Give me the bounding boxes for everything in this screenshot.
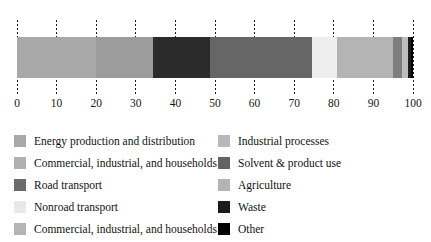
legend-column-left: Energy production and distributionCommer… xyxy=(14,130,224,240)
legend-item-label: Waste xyxy=(238,201,266,214)
bar-segment xyxy=(411,37,413,78)
x-tick-label: 20 xyxy=(90,96,102,110)
legend-item-label: Solvent & product use xyxy=(238,157,341,170)
legend-item: Industrial processes xyxy=(218,130,430,152)
legend-item: Commercial, industrial, and households xyxy=(14,218,224,240)
x-tick-label: 40 xyxy=(170,96,182,110)
x-tick-label: 30 xyxy=(130,96,142,110)
legend-item: Energy production and distribution xyxy=(14,130,224,152)
legend-item: Solvent & product use xyxy=(218,152,430,174)
legend-column-right: Industrial processesSolvent & product us… xyxy=(218,130,430,240)
bar-segment xyxy=(96,37,153,78)
stacked-bar xyxy=(17,37,413,78)
legend-swatch-icon xyxy=(14,179,26,191)
legend-swatch-icon xyxy=(218,223,230,235)
legend-item-label: Commercial, industrial, and households xyxy=(34,157,217,170)
x-tick-label: 80 xyxy=(328,96,340,110)
x-tick-label: 60 xyxy=(249,96,261,110)
legend-item: Other xyxy=(218,218,430,240)
legend-swatch-icon xyxy=(218,157,230,169)
x-tick-label: 10 xyxy=(51,96,63,110)
x-tick-label: 100 xyxy=(404,96,421,110)
legend-item-label: Road transport xyxy=(34,179,102,192)
legend-item: Nonroad transport xyxy=(14,196,224,218)
bar-segment xyxy=(17,37,96,78)
legend-swatch-icon xyxy=(14,157,26,169)
legend-swatch-icon xyxy=(218,135,230,147)
legend-item: Agriculture xyxy=(218,174,430,196)
legend-swatch-icon xyxy=(14,135,26,147)
x-tick-label: 70 xyxy=(288,96,300,110)
legend-swatch-icon xyxy=(14,201,26,213)
x-axis-tick-labels: 0102030405060708090100 xyxy=(0,96,431,116)
legend-item-label: Other xyxy=(238,223,264,236)
bar-segment xyxy=(210,37,312,78)
x-tick-label: 0 xyxy=(14,96,20,110)
chart-legend: Energy production and distributionCommer… xyxy=(0,130,431,242)
legend-item-label: Energy production and distribution xyxy=(34,135,195,148)
legend-item: Road transport xyxy=(14,174,224,196)
legend-swatch-icon xyxy=(218,179,230,191)
legend-item: Waste xyxy=(218,196,430,218)
legend-swatch-icon xyxy=(218,201,230,213)
x-tick-label: 50 xyxy=(209,96,221,110)
legend-item-label: Agriculture xyxy=(238,179,291,192)
x-tick-label: 90 xyxy=(368,96,380,110)
bar-segment xyxy=(153,37,210,78)
legend-item-label: Industrial processes xyxy=(238,135,329,148)
bar-segment xyxy=(312,37,337,78)
legend-item: Commercial, industrial, and households xyxy=(14,152,224,174)
bar-segment xyxy=(393,37,402,78)
legend-item-label: Nonroad transport xyxy=(34,201,118,214)
legend-item-label: Commercial, industrial, and households xyxy=(34,223,217,236)
stacked-bar-chart: 0102030405060708090100 Energy production… xyxy=(0,0,431,242)
legend-swatch-icon xyxy=(14,223,26,235)
bar-segment xyxy=(337,37,393,78)
